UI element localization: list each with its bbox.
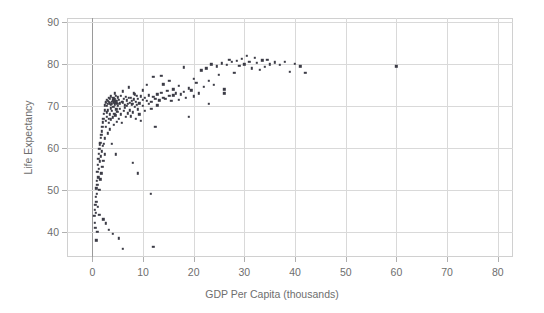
data-point xyxy=(117,237,119,239)
scatter-chart-figure: 01020304050607080 405060708090 GDP Per C… xyxy=(0,0,544,313)
data-point xyxy=(95,239,97,241)
data-point xyxy=(241,58,243,60)
data-point xyxy=(112,106,114,108)
x-tick-label: 60 xyxy=(391,266,403,278)
data-point xyxy=(274,61,276,63)
data-point xyxy=(100,172,102,174)
data-point xyxy=(177,99,179,101)
data-point xyxy=(154,126,156,128)
data-point xyxy=(225,64,227,66)
data-point xyxy=(100,137,102,139)
data-point xyxy=(175,92,177,94)
data-point xyxy=(142,105,144,107)
data-point xyxy=(299,65,301,67)
data-point xyxy=(112,124,114,126)
data-point xyxy=(114,114,116,116)
data-point xyxy=(152,75,154,77)
data-point xyxy=(187,115,189,117)
data-point xyxy=(96,193,98,195)
x-tick-mark xyxy=(194,257,195,262)
y-axis-label: Life Expectancy xyxy=(22,18,34,257)
data-point xyxy=(223,88,225,90)
data-point xyxy=(146,84,148,86)
data-point xyxy=(97,164,99,166)
data-point xyxy=(94,222,96,224)
data-point xyxy=(251,67,253,69)
data-point xyxy=(96,180,98,182)
data-point xyxy=(231,61,233,63)
data-point xyxy=(284,60,286,62)
data-point xyxy=(125,116,127,118)
data-point xyxy=(238,65,240,67)
y-tick-mark xyxy=(62,190,67,191)
data-point xyxy=(97,205,99,207)
x-tick-mark xyxy=(346,257,347,262)
data-point xyxy=(96,184,98,186)
data-point xyxy=(128,86,130,88)
data-point xyxy=(103,143,105,145)
y-tick-mark xyxy=(62,22,67,23)
data-point xyxy=(126,105,128,107)
data-point xyxy=(127,112,129,114)
data-point xyxy=(102,145,104,147)
y-tick-label: 90 xyxy=(33,16,59,28)
data-point xyxy=(190,89,192,91)
data-point xyxy=(93,215,95,217)
data-point xyxy=(166,90,168,92)
data-point xyxy=(123,110,125,112)
data-point xyxy=(220,62,222,64)
data-point xyxy=(148,94,150,96)
data-point xyxy=(256,62,258,64)
data-point xyxy=(99,141,101,143)
data-point xyxy=(101,166,103,168)
y-tick-label: 80 xyxy=(33,58,59,70)
data-point xyxy=(126,99,128,101)
data-point xyxy=(120,95,122,97)
data-point xyxy=(99,178,101,180)
data-point xyxy=(137,108,139,110)
data-point xyxy=(150,101,152,103)
data-point xyxy=(110,118,112,120)
x-tick-mark xyxy=(295,257,296,262)
data-point xyxy=(395,65,397,67)
x-tick-mark xyxy=(143,257,144,262)
data-point xyxy=(208,103,210,105)
data-point xyxy=(248,60,250,62)
data-point xyxy=(152,245,154,247)
data-point xyxy=(162,83,164,85)
data-point xyxy=(132,161,134,163)
y-tick-mark xyxy=(62,64,67,65)
data-point xyxy=(101,130,103,132)
data-point xyxy=(132,111,134,113)
data-point xyxy=(103,153,105,155)
data-point xyxy=(243,63,245,65)
data-point xyxy=(150,107,152,109)
data-point xyxy=(104,126,106,128)
data-point xyxy=(107,109,109,111)
data-point xyxy=(258,69,260,71)
data-point xyxy=(261,59,263,61)
y-tick-label: 70 xyxy=(33,100,59,112)
data-point xyxy=(119,107,121,109)
data-point xyxy=(107,229,109,231)
data-point xyxy=(185,96,187,98)
data-point xyxy=(122,90,124,92)
x-tick-label: 70 xyxy=(441,266,453,278)
data-point xyxy=(104,137,106,139)
data-point xyxy=(111,116,113,118)
data-point xyxy=(160,91,162,93)
data-point xyxy=(110,143,112,145)
data-point xyxy=(107,122,109,124)
data-point xyxy=(101,126,103,128)
data-point xyxy=(98,189,100,191)
data-point xyxy=(130,115,132,117)
data-point xyxy=(160,75,162,77)
data-point xyxy=(117,117,119,119)
data-point xyxy=(304,71,306,73)
data-point xyxy=(115,120,117,122)
data-point xyxy=(102,218,104,220)
data-point xyxy=(116,111,118,113)
data-point xyxy=(177,85,179,87)
x-tick-mark xyxy=(447,257,448,262)
data-point xyxy=(236,60,238,62)
